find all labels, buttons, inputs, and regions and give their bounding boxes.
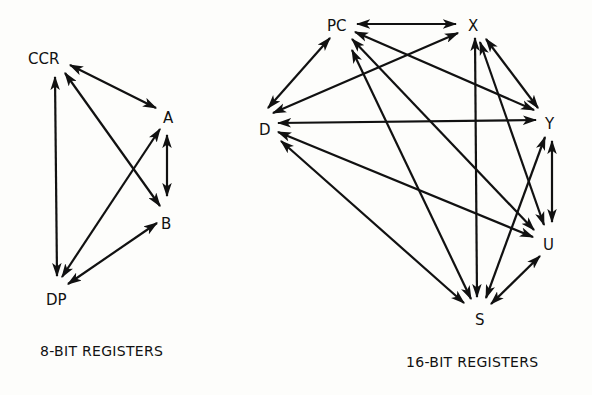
node-b: B	[161, 215, 171, 233]
edge-ccr-a	[70, 65, 156, 108]
edge-x-u	[480, 42, 544, 225]
edge-pc-s	[352, 50, 471, 299]
edge-x-d	[273, 33, 458, 113]
node-u: U	[543, 236, 554, 254]
edge-y-s	[486, 137, 545, 298]
edge-b-dp	[68, 223, 157, 284]
node-dp: DP	[46, 291, 67, 309]
node-s: S	[475, 311, 485, 329]
node-pc: PC	[327, 17, 347, 35]
edge-d-u	[278, 132, 533, 237]
16-bit-registers-diagram: PCXYUSD16-BIT REGISTERS	[259, 17, 555, 370]
node-y: Y	[544, 115, 555, 133]
node-d: D	[259, 121, 271, 139]
edge-pc-d	[268, 38, 330, 108]
edge-ccr-b	[65, 73, 160, 206]
node-a: A	[163, 109, 174, 127]
node-x: X	[468, 17, 478, 35]
edge-d-y	[278, 120, 536, 123]
8-bit-registers-diagram: CCRABDP8-BIT REGISTERS	[28, 50, 174, 359]
caption-8bit: 8-BIT REGISTERS	[40, 343, 163, 359]
edge-d-s	[281, 141, 464, 303]
caption-16bit: 16-BIT REGISTERS	[406, 354, 538, 370]
register-transfer-diagram: CCRABDP8-BIT REGISTERS PCXYUSD16-BIT REG…	[0, 0, 592, 395]
node-ccr: CCR	[28, 50, 59, 68]
edge-ccr-dp	[55, 77, 57, 276]
edge-x-s	[475, 38, 477, 297]
edge-x-y	[486, 39, 538, 108]
